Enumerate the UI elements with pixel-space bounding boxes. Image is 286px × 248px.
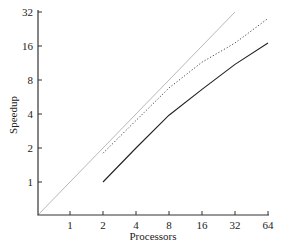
speedup-chart: 1248163264 12481632 Processors Speedup (0, 0, 286, 248)
series-solid-line (103, 43, 268, 182)
x-axis-ticks: 1248163264 (67, 211, 274, 231)
y-tick-label: 32 (22, 6, 33, 18)
x-tick-label: 32 (230, 219, 241, 231)
x-tick-label: 64 (263, 219, 275, 231)
y-axis-label: Speedup (7, 96, 19, 134)
y-tick-label: 8 (28, 74, 34, 86)
series-ideal-line (37, 12, 235, 216)
y-tick-label: 2 (28, 142, 34, 154)
x-axis-label: Processors (129, 230, 176, 242)
y-axis-ticks: 12481632 (22, 6, 42, 188)
series-dotted-line (103, 19, 268, 154)
y-tick-label: 4 (28, 108, 34, 120)
x-tick-label: 1 (67, 219, 73, 231)
x-tick-label: 16 (197, 219, 209, 231)
plot-area (37, 12, 268, 216)
y-tick-label: 1 (28, 176, 34, 188)
x-tick-label: 2 (100, 219, 106, 231)
y-tick-label: 16 (22, 40, 34, 52)
